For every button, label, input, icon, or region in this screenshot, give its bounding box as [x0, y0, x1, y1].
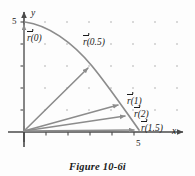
figure-caption: Figure 10-6i — [0, 161, 195, 172]
vector-label-r-1-symbol: r — [127, 97, 131, 107]
x-axis-label: x — [172, 127, 176, 137]
y-axis-label: y — [31, 9, 35, 19]
vector-label-r-2-symbol: r — [134, 110, 138, 120]
vector-label-r-1p5-symbol: r — [141, 124, 145, 134]
vector-label-r-0p5-arg: (0.5) — [87, 37, 105, 47]
y-tick-5: 5 — [12, 17, 17, 26]
vector-label-r-0p5: r(0.5) — [83, 38, 105, 48]
figure-10-6i: y x 5 5 r(0) r(0.5) r(1) r(2) r(1.5) Fig… — [0, 0, 195, 176]
x-tick-5: 5 — [136, 139, 141, 148]
vector-r-1p5 — [24, 130, 134, 131]
vector-label-r-0-arg: (0) — [31, 33, 42, 43]
vector-plot — [0, 0, 195, 176]
vector-label-r-1p5-arg: (1.5) — [145, 123, 163, 133]
vector-label-r-0-symbol: r — [27, 34, 31, 44]
vector-label-r-0p5-symbol: r — [83, 38, 87, 48]
grid-dots — [44, 21, 177, 110]
vector-r-2 — [24, 116, 125, 131]
vector-label-r-1p5: r(1.5) — [141, 124, 163, 134]
vector-label-r-0: r(0) — [27, 34, 42, 44]
vector-label-r-2-arg: (2) — [138, 109, 149, 119]
